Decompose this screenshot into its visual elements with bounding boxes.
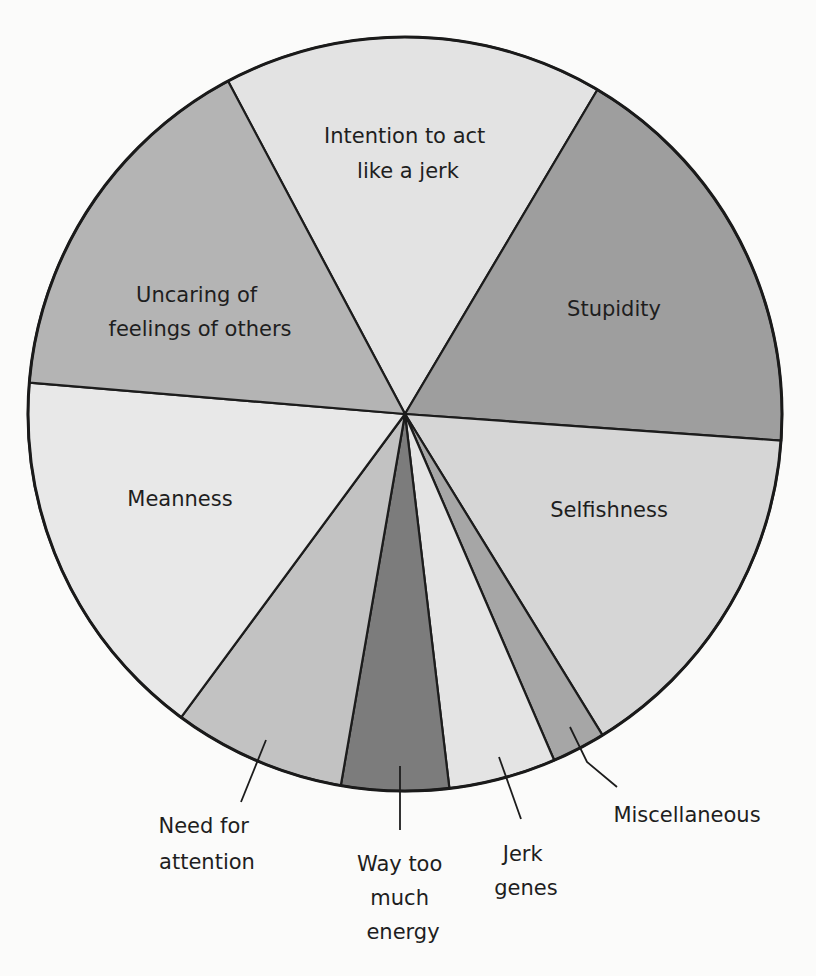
- label-stupidity: Stupidity: [567, 297, 661, 321]
- label-need-for-attention: Need for attention: [158, 814, 255, 874]
- label-miscellaneous: Miscellaneous: [613, 803, 760, 827]
- label-jerk-genes: Jerk genes: [494, 842, 557, 900]
- pie-slices: [28, 37, 782, 791]
- label-meanness: Meanness: [127, 487, 232, 511]
- label-way-too-much-energy: Way too much energy: [357, 852, 449, 944]
- pie-chart: Intention to act like a jerk Stupidity U…: [0, 0, 816, 976]
- label-selfishness: Selfishness: [550, 498, 668, 522]
